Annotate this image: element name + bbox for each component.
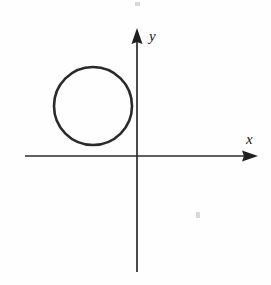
y-axis-label: y xyxy=(147,28,156,44)
x-axis-label: x xyxy=(245,131,253,147)
circle-curve xyxy=(54,67,132,145)
y-axis-arrow-icon xyxy=(132,28,143,44)
coordinate-plane-diagram: y x xyxy=(0,0,271,285)
scan-artifact-mid xyxy=(196,212,200,218)
figure-canvas: y x xyxy=(0,0,271,285)
scan-artifact-top xyxy=(135,2,140,6)
x-axis-arrow-icon xyxy=(242,151,258,162)
